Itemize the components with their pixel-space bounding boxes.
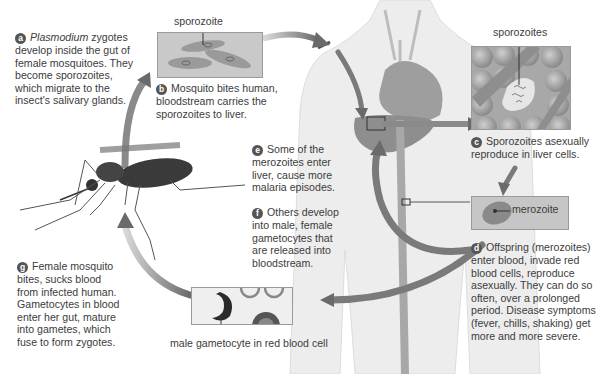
gametocyte-label: male gametocyte in red blood cell (170, 337, 328, 349)
sporozoite-label: sporozoite (174, 15, 223, 27)
step-b-badge: b (156, 84, 167, 95)
step-b-text: bMosquito bites human, bloodstream carri… (156, 82, 291, 120)
step-f-badge: f (252, 208, 263, 219)
step-g-text: gFemale mosquito bites, sucks blood from… (17, 260, 147, 349)
step-c-text: cSporozoites asexually reproduce in live… (471, 135, 606, 161)
step-g-badge: g (17, 262, 28, 273)
step-f-text: fOthers develop into male, female gameto… (252, 206, 362, 269)
step-d-text: dOffspring (merozoites) enter blood, inv… (471, 241, 610, 342)
step-a-text: aPlasmodium zygotes develop inside the g… (15, 31, 150, 107)
liver-cells-panel (471, 46, 571, 130)
step-d-badge: d (471, 243, 482, 254)
step-a-badge: a (15, 33, 26, 44)
step-e-badge: e (252, 145, 263, 156)
merozoite-label: merozoite (512, 203, 559, 215)
sporozoites-label: sporozoites (493, 26, 547, 38)
step-c-badge: c (471, 137, 482, 148)
gametocyte-panel (191, 287, 293, 325)
step-e-text: eSome of the merozoites enter liver, cau… (252, 143, 362, 194)
sporozoite-panel (157, 32, 263, 78)
